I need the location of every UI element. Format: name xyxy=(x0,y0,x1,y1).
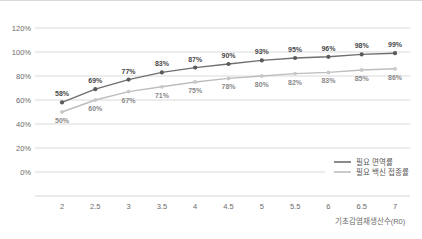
data-point xyxy=(93,98,97,102)
y-axis-tick-labels: 0%20%40%60%80%100%120% xyxy=(12,24,32,177)
x-tick-label: 2 xyxy=(60,202,64,211)
data-label: 95% xyxy=(288,46,303,53)
x-tick-label: 3 xyxy=(127,202,131,211)
data-point xyxy=(360,68,364,72)
top-divider xyxy=(0,0,422,1)
y-tick-label: 0% xyxy=(20,168,31,177)
x-tick-label: 5 xyxy=(260,202,264,211)
x-tick-label: 6.5 xyxy=(356,202,366,211)
data-point xyxy=(60,100,64,104)
data-label: 83% xyxy=(155,60,170,67)
chart-legend: 필요 면역률필요 백신 접종률 xyxy=(334,157,409,177)
data-label: 86% xyxy=(388,74,403,81)
data-label: 78% xyxy=(221,83,236,90)
chart-container: 0%20%40%60%80%100%120% 22.533.544.555.56… xyxy=(0,0,422,239)
data-point xyxy=(193,80,197,84)
data-label: 80% xyxy=(255,81,270,88)
data-point xyxy=(326,55,330,59)
data-point xyxy=(360,52,364,56)
data-label: 93% xyxy=(255,48,270,55)
data-label: 85% xyxy=(355,75,370,82)
data-label: 50% xyxy=(55,117,70,124)
x-axis-tick-labels: 22.533.544.555.566.57 xyxy=(60,202,397,211)
data-point xyxy=(293,56,297,60)
x-tick-label: 7 xyxy=(393,202,397,211)
data-point xyxy=(260,74,264,78)
y-tick-label: 100% xyxy=(12,48,32,57)
data-point xyxy=(327,71,331,75)
data-label: 69% xyxy=(88,77,103,84)
data-label: 67% xyxy=(122,97,137,104)
data-point xyxy=(227,77,231,81)
data-point xyxy=(193,66,197,70)
y-tick-label: 60% xyxy=(16,96,31,105)
data-point xyxy=(127,90,131,94)
x-tick-label: 5.5 xyxy=(290,202,300,211)
legend-label: 필요 백신 접종률 xyxy=(356,167,409,177)
data-point xyxy=(160,85,164,89)
data-point xyxy=(393,51,397,55)
data-point xyxy=(127,78,131,82)
legend-label: 필요 면역률 xyxy=(356,157,393,167)
data-label: 99% xyxy=(388,41,403,48)
x-axis-title: 기초감염재생산수(R0) xyxy=(335,216,406,226)
data-label: 82% xyxy=(288,79,303,86)
x-tick-label: 4 xyxy=(193,202,197,211)
data-point xyxy=(60,110,64,114)
data-point xyxy=(393,67,397,71)
data-label: 90% xyxy=(221,52,236,59)
data-label: 71% xyxy=(155,92,170,99)
data-label: 77% xyxy=(122,68,137,75)
y-tick-label: 120% xyxy=(12,24,32,33)
data-label: 60% xyxy=(88,105,103,112)
line-chart: 0%20%40%60%80%100%120% 22.533.544.555.56… xyxy=(0,0,422,239)
data-point xyxy=(260,58,264,62)
data-label: 58% xyxy=(55,90,70,97)
data-point xyxy=(226,62,230,66)
x-tick-label: 3.5 xyxy=(157,202,167,211)
data-label: 83% xyxy=(321,77,336,84)
data-point xyxy=(293,72,297,76)
x-tick-label: 6 xyxy=(326,202,330,211)
data-label: 87% xyxy=(188,56,203,63)
data-point xyxy=(93,87,97,91)
data-labels-required-vaccination-rate: 50%60%67%71%75%78%80%82%83%85%86% xyxy=(55,74,403,124)
gridlines-group xyxy=(35,28,410,172)
x-tick-label: 4.5 xyxy=(223,202,233,211)
data-label: 75% xyxy=(188,87,203,94)
y-tick-label: 40% xyxy=(16,120,31,129)
y-tick-label: 80% xyxy=(16,72,31,81)
y-tick-label: 20% xyxy=(16,144,31,153)
data-label: 98% xyxy=(355,42,370,49)
x-tick-label: 2.5 xyxy=(90,202,100,211)
data-label: 96% xyxy=(321,45,336,52)
data-point xyxy=(160,70,164,74)
